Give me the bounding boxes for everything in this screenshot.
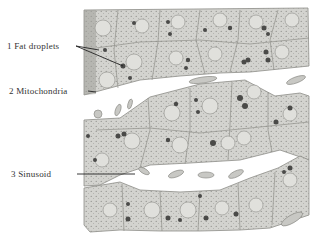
label-mitochondria: 2 Mitochondria xyxy=(9,86,68,96)
liver-histology-illustration xyxy=(0,0,319,246)
label-fat-droplets: 1 Fat droplets xyxy=(7,41,59,51)
label-sinusoid: 3 Sinusoid xyxy=(11,169,51,179)
